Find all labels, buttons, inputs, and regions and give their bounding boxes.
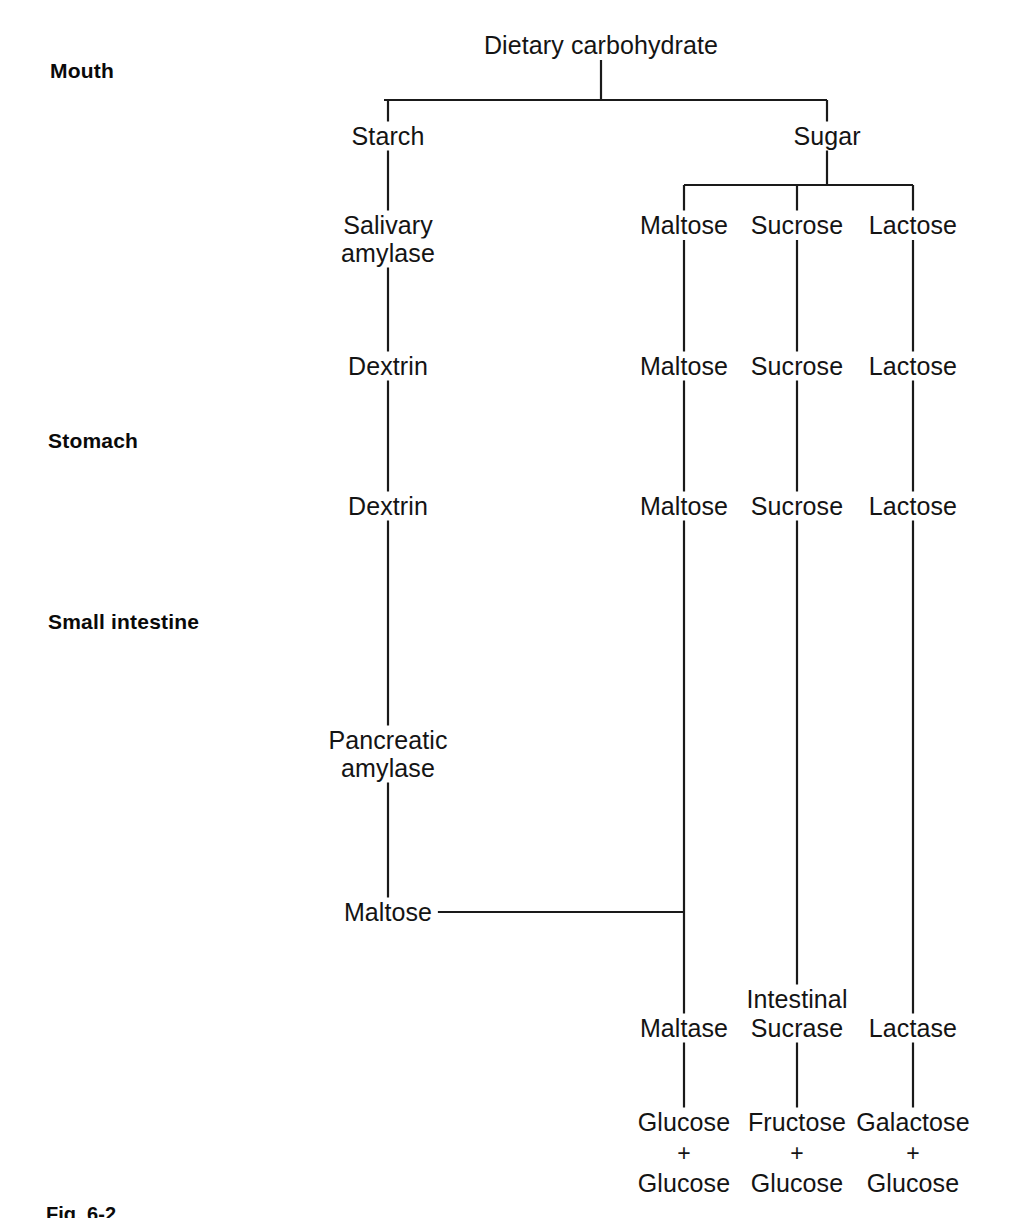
node-intestinal: Intestinal (740, 985, 853, 1014)
region-label-stomach: Stomach (48, 429, 138, 453)
node-salivary-amylase-1: Salivary (337, 211, 439, 240)
node-dextrin-1: Dextrin (342, 352, 434, 381)
region-label-small-intestine: Small intestine (48, 610, 199, 634)
node-sugar-sucrose-3: Sucrose (745, 492, 849, 521)
carbohydrate-digestion-diagram: MouthStomachSmall intestine Dietary carb… (0, 0, 1017, 1218)
plus-sucrase: + (785, 1140, 808, 1167)
plus-lactase: + (901, 1140, 924, 1167)
figure-caption: Fig. 6-2 (46, 1203, 116, 1218)
node-pancreatic-amylase-2: amylase (335, 754, 441, 783)
plus-maltase: + (672, 1140, 695, 1167)
node-starch: Starch (346, 122, 431, 151)
node-glucose-2: Glucose (632, 1169, 736, 1198)
node-dietary-carbohydrate: Dietary carbohydrate (478, 31, 724, 60)
region-label-mouth: Mouth (50, 59, 114, 83)
node-sugar-lactose-2: Lactose (863, 352, 963, 381)
node-sugar-maltose-3: Maltose (634, 492, 734, 521)
node-dextrin-2: Dextrin (342, 492, 434, 521)
node-sugar-lactose-1: Lactose (863, 211, 963, 240)
node-sugar-maltose-1: Maltose (634, 211, 734, 240)
node-glucose-1: Glucose (632, 1108, 736, 1137)
node-maltase: Maltase (634, 1014, 734, 1043)
node-glucose-4: Glucose (861, 1169, 965, 1198)
node-fructose: Fructose (742, 1108, 852, 1137)
node-pancreatic-amylase-1: Pancreatic (322, 726, 453, 755)
node-salivary-amylase-2: amylase (335, 239, 441, 268)
node-sugar-lactose-3: Lactose (863, 492, 963, 521)
node-sugar: Sugar (787, 122, 866, 151)
node-galactose: Galactose (850, 1108, 975, 1137)
node-lactase: Lactase (863, 1014, 963, 1043)
node-glucose-3: Glucose (745, 1169, 849, 1198)
node-sucrase: Sucrase (745, 1014, 849, 1043)
node-maltose-product: Maltose (338, 898, 438, 927)
node-sugar-maltose-2: Maltose (634, 352, 734, 381)
node-sugar-sucrose-2: Sucrose (745, 352, 849, 381)
node-sugar-sucrose-1: Sucrose (745, 211, 849, 240)
